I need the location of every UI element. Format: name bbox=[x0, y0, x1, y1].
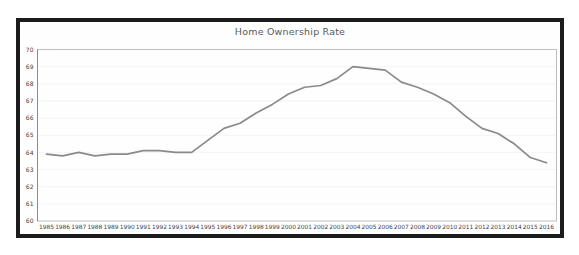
x-tick-label: 2011 bbox=[458, 224, 473, 230]
x-tick-label: 2010 bbox=[442, 224, 457, 230]
x-tick-label: 2002 bbox=[313, 224, 328, 230]
x-tick-label: 2004 bbox=[345, 224, 360, 230]
x-tick-label: 1993 bbox=[168, 224, 183, 230]
y-tick-label: 62 bbox=[26, 183, 34, 190]
x-tick-label: 1985 bbox=[39, 224, 54, 230]
x-tick-label: 2005 bbox=[362, 224, 377, 230]
x-tick-label: 1994 bbox=[184, 224, 199, 230]
x-tick-label: 2006 bbox=[378, 224, 393, 230]
x-tick-label: 2014 bbox=[507, 224, 522, 230]
x-tick-label: 1990 bbox=[120, 224, 135, 230]
chart-svg: 7069686766656463626160198519861987198819… bbox=[20, 22, 560, 234]
x-tick-label: 2009 bbox=[426, 224, 441, 230]
x-tick-label: 2016 bbox=[539, 224, 554, 230]
y-tick-label: 68 bbox=[26, 80, 34, 87]
x-tick-label: 1996 bbox=[216, 224, 231, 230]
scan-page: Home Ownership Rate 70696867666564636261… bbox=[0, 0, 579, 255]
x-tick-label: 1992 bbox=[152, 224, 167, 230]
y-tick-label: 67 bbox=[26, 97, 34, 104]
chart-frame: Home Ownership Rate 70696867666564636261… bbox=[16, 18, 564, 238]
x-tick-label: 2003 bbox=[329, 224, 344, 230]
x-tick-label: 1997 bbox=[233, 224, 248, 230]
x-tick-label: 1995 bbox=[200, 224, 215, 230]
y-tick-label: 69 bbox=[26, 63, 34, 70]
y-tick-label: 70 bbox=[26, 46, 34, 53]
x-tick-label: 1986 bbox=[55, 224, 70, 230]
x-tick-label: 1989 bbox=[104, 224, 119, 230]
x-tick-label: 1998 bbox=[249, 224, 264, 230]
x-tick-label: 2012 bbox=[474, 224, 489, 230]
x-tick-label: 2001 bbox=[297, 224, 312, 230]
data-line bbox=[47, 67, 547, 163]
x-tick-label: 2008 bbox=[410, 224, 425, 230]
x-tick-label: 1988 bbox=[87, 224, 102, 230]
x-tick-label: 1999 bbox=[265, 224, 280, 230]
y-tick-label: 60 bbox=[26, 217, 34, 224]
y-tick-label: 63 bbox=[26, 166, 34, 173]
x-tick-label: 2013 bbox=[491, 224, 506, 230]
y-tick-label: 61 bbox=[26, 200, 34, 207]
y-tick-label: 64 bbox=[26, 149, 34, 156]
x-tick-label: 2000 bbox=[281, 224, 296, 230]
y-tick-label: 66 bbox=[26, 114, 34, 121]
x-tick-label: 1991 bbox=[136, 224, 151, 230]
y-tick-label: 65 bbox=[26, 131, 34, 138]
x-tick-label: 2015 bbox=[523, 224, 538, 230]
x-tick-label: 2007 bbox=[394, 224, 409, 230]
x-tick-label: 1987 bbox=[71, 224, 86, 230]
